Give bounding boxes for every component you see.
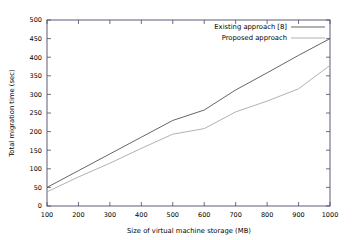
x-tick-label: 900 xyxy=(292,211,304,219)
x-axis-title: Size of virtual machine storage (MB) xyxy=(127,227,251,235)
chart-background xyxy=(0,0,356,240)
y-axis-title: Total migration time (sec) xyxy=(8,69,16,158)
y-tick-label: 250 xyxy=(30,109,42,117)
y-tick-label: 200 xyxy=(30,128,42,136)
y-tick-label: 450 xyxy=(30,35,42,43)
y-tick-label: 150 xyxy=(30,147,42,155)
x-tick-label: 800 xyxy=(261,211,273,219)
y-tick-label: 300 xyxy=(30,91,42,99)
x-tick-label: 300 xyxy=(104,211,116,219)
x-tick-label: 700 xyxy=(229,211,241,219)
y-tick-label: 400 xyxy=(30,54,42,62)
x-tick-label: 600 xyxy=(198,211,210,219)
x-tick-label: 400 xyxy=(135,211,147,219)
legend-label-existing: Existing approach [8] xyxy=(214,23,287,31)
y-tick-label: 50 xyxy=(34,184,42,192)
x-tick-label: 100 xyxy=(41,211,53,219)
y-tick-label: 100 xyxy=(30,165,42,173)
y-tick-label: 0 xyxy=(38,202,42,210)
y-tick-label: 500 xyxy=(30,16,42,24)
line-chart: 050100150200250300350400450500 100200300… xyxy=(0,0,356,240)
y-tick-label: 350 xyxy=(30,72,42,80)
chart-container: 050100150200250300350400450500 100200300… xyxy=(0,0,356,240)
x-tick-label: 1000 xyxy=(322,211,339,219)
x-tick-label: 200 xyxy=(72,211,84,219)
legend-label-proposed: Proposed approach xyxy=(222,34,287,42)
x-tick-label: 500 xyxy=(167,211,179,219)
